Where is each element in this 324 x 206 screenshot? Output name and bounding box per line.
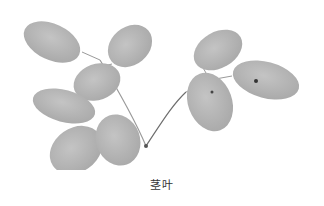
plant-photo: [0, 0, 324, 170]
leaves-illustration: [0, 0, 324, 170]
figure-caption: 茎叶: [0, 176, 324, 192]
